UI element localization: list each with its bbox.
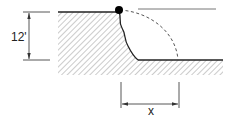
- arrow-up-icon: [27, 13, 30, 19]
- arrow-right-icon: [172, 102, 178, 105]
- crest-point-icon: [115, 6, 123, 14]
- arrow-down-icon: [27, 53, 30, 59]
- slope-failure-diagram: [0, 0, 233, 122]
- soil-mass-hatch: [58, 12, 223, 75]
- arrow-left-icon: [122, 102, 128, 105]
- offset-label: x: [148, 105, 154, 117]
- height-label: 12': [11, 31, 27, 43]
